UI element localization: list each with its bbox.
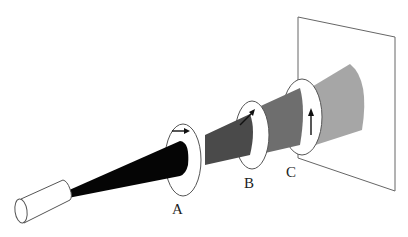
polarizer-a-label: A <box>172 201 183 217</box>
laser-source <box>13 180 71 224</box>
polarizer-b-label: B <box>244 175 254 191</box>
polarizer-b: B <box>205 101 269 191</box>
polarizer-diagram: C B A <box>0 0 408 237</box>
beam-segment-laser-to-a <box>67 141 188 198</box>
polarizer-a: A <box>67 124 201 217</box>
polarizer-c-label: C <box>286 164 296 180</box>
laser-body <box>21 180 71 223</box>
